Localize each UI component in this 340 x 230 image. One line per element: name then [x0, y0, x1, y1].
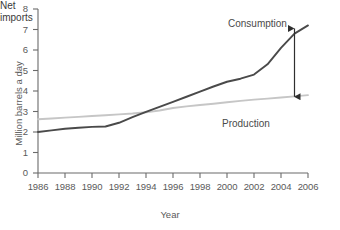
y-tick-label-8: 8: [12, 3, 28, 14]
x-tick-label-1992: 1992: [105, 181, 133, 192]
x-axis-ticks: [38, 173, 308, 178]
consumption-series-label: Consumption: [228, 18, 287, 29]
chart-plot-area: [0, 0, 340, 230]
y-axis-ticks: [33, 9, 38, 173]
x-tick-label-1994: 1994: [132, 181, 160, 192]
x-tick-label-1988: 1988: [51, 181, 79, 192]
x-tick-label-1990: 1990: [78, 181, 106, 192]
y-axis-title: Million barrels a day: [13, 39, 24, 169]
y-tick-label-7: 7: [12, 24, 28, 35]
x-tick-label-2002: 2002: [240, 181, 268, 192]
x-tick-label-1998: 1998: [186, 181, 214, 192]
x-tick-label-1996: 1996: [159, 181, 187, 192]
x-axis-title: Year: [0, 209, 340, 220]
x-tick-label-2004: 2004: [267, 181, 295, 192]
x-tick-label-2006: 2006: [294, 181, 322, 192]
production-series-label: Production: [222, 118, 270, 129]
x-tick-label-1986: 1986: [24, 181, 52, 192]
production-line: [38, 95, 308, 119]
x-tick-label-2000: 2000: [213, 181, 241, 192]
y-tick-label-0: 0: [12, 167, 28, 178]
oil-consumption-production-chart: 0 1 2 3 4 5 6 7 8 1986 1988 1990 1992 19…: [0, 0, 340, 230]
